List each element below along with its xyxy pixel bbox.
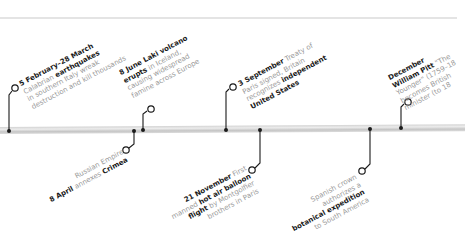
bar-dot-icon <box>258 128 262 132</box>
connector-laki <box>143 111 147 130</box>
connector-crimea <box>129 131 134 148</box>
bar-dot-icon <box>141 128 145 132</box>
connector-earthquakes <box>9 91 12 131</box>
node-circle-icon <box>249 167 255 173</box>
bar-dot-icon <box>132 129 136 133</box>
bar-dot-icon <box>224 128 228 132</box>
node-circle-icon <box>359 168 365 174</box>
bar-dot-icon <box>399 126 403 130</box>
node-circle-icon <box>148 106 154 112</box>
node-circle-icon <box>12 85 18 91</box>
node-circle-icon <box>230 84 236 90</box>
bar-dot-icon <box>368 127 372 131</box>
bar-dot-icon <box>7 129 11 133</box>
connector-balloon <box>255 130 260 168</box>
connector-treaty <box>226 89 229 130</box>
connector-botanical <box>365 129 370 169</box>
